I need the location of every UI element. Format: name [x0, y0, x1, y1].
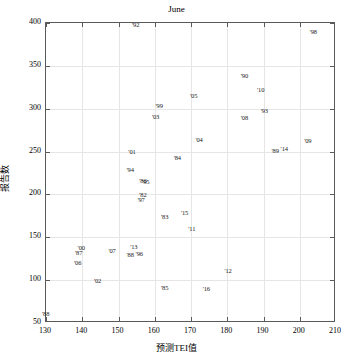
data-point-label: '06	[74, 259, 81, 266]
y-axis-tick-label: 200	[15, 188, 41, 197]
gridline-horizontal	[46, 66, 334, 67]
data-point-label: '13	[130, 242, 137, 249]
x-axis-tick-label: 150	[103, 326, 133, 335]
gridline-vertical	[191, 23, 192, 321]
data-point-label: '98	[310, 28, 317, 35]
y-axis-tick-label: 150	[15, 231, 41, 240]
y-axis-tick	[330, 237, 334, 238]
x-axis-tick	[191, 317, 192, 321]
x-axis-title: 预测TEI值	[0, 341, 353, 354]
gridline-horizontal	[46, 109, 334, 110]
x-axis-tick-label: 130	[30, 326, 60, 335]
data-point-label: '99	[156, 102, 163, 109]
x-axis-tick	[300, 23, 301, 27]
y-axis-tick	[330, 109, 334, 110]
x-axis-tick-label: 160	[139, 326, 169, 335]
x-axis-tick	[82, 317, 83, 321]
data-point-label: '93	[261, 107, 268, 114]
y-axis-tick	[46, 152, 50, 153]
gridline-vertical	[155, 23, 156, 321]
data-point-label: '01	[128, 147, 135, 154]
data-point-label: '15	[181, 209, 188, 216]
y-axis-tick	[330, 194, 334, 195]
data-point-label: '88	[42, 310, 49, 317]
x-axis-tick-label: 170	[175, 326, 205, 335]
y-axis-tick-label: 350	[15, 60, 41, 69]
x-axis-tick	[155, 317, 156, 321]
gridline-horizontal	[46, 237, 334, 238]
gridline-vertical	[227, 23, 228, 321]
y-axis-tick	[330, 280, 334, 281]
gridline-vertical	[300, 23, 301, 321]
x-axis-tick	[227, 23, 228, 27]
y-axis-tick	[330, 23, 334, 24]
plot-area	[45, 22, 335, 322]
x-axis-tick-label: 200	[284, 326, 314, 335]
y-axis-tick-label: 250	[15, 146, 41, 155]
x-axis-tick-label: 140	[66, 326, 96, 335]
y-axis-tick-label: 300	[15, 103, 41, 112]
y-axis-tick	[46, 194, 50, 195]
x-axis-tick	[82, 23, 83, 27]
data-point-label: '84	[174, 153, 181, 160]
data-point-label: '14	[281, 145, 288, 152]
x-axis-tick-label: 180	[211, 326, 241, 335]
x-axis-tick	[264, 317, 265, 321]
x-axis-tick	[119, 317, 120, 321]
x-axis-tick	[227, 317, 228, 321]
gridline-horizontal	[46, 194, 334, 195]
data-point-label: '08	[241, 114, 248, 121]
chart-figure: June 预测TEI值 报告数 130140150160170180190200…	[0, 0, 353, 362]
data-point-label: '88	[127, 251, 134, 258]
gridline-vertical	[264, 23, 265, 321]
x-axis-tick	[191, 23, 192, 27]
data-point-label: '94	[127, 166, 134, 173]
data-point-label: '95	[142, 177, 149, 184]
x-axis-tick	[155, 23, 156, 27]
y-axis-tick	[46, 109, 50, 110]
data-point-label: '11	[188, 224, 195, 231]
x-axis-tick	[264, 23, 265, 27]
data-point-label: '02	[94, 277, 101, 284]
gridline-vertical	[82, 23, 83, 321]
x-axis-tick-label: 210	[320, 326, 350, 335]
data-point-label: '10	[257, 85, 264, 92]
x-axis-tick	[119, 23, 120, 27]
y-axis-tick	[46, 66, 50, 67]
data-point-label: '04	[195, 136, 202, 143]
y-axis-title: 报告数	[0, 165, 11, 192]
y-axis-tick-label: 400	[15, 17, 41, 26]
y-axis-tick	[330, 66, 334, 67]
data-point-label: '09	[304, 137, 311, 144]
x-axis-tick	[46, 317, 47, 321]
y-axis-tick	[46, 23, 50, 24]
data-point-label: '97	[137, 195, 144, 202]
data-point-label: '07	[108, 247, 115, 254]
data-point-label: '05	[190, 91, 197, 98]
chart-title: June	[0, 4, 353, 14]
data-point-label: '92	[132, 20, 139, 27]
y-axis-tick-label: 50	[15, 317, 41, 326]
y-axis-tick-label: 100	[15, 274, 41, 283]
data-point-label: '83	[161, 212, 168, 219]
y-axis-tick	[330, 152, 334, 153]
data-point-label: '16	[203, 284, 210, 291]
x-axis-tick	[300, 317, 301, 321]
data-point-label: '03	[152, 113, 159, 120]
y-axis-tick	[46, 280, 50, 281]
gridline-vertical	[119, 23, 120, 321]
x-axis-tick-label: 190	[248, 326, 278, 335]
data-point-label: '12	[224, 266, 231, 273]
data-point-label: '96	[136, 250, 143, 257]
y-axis-tick	[46, 237, 50, 238]
data-point-label: '87	[75, 248, 82, 255]
data-point-label: '89	[272, 146, 279, 153]
gridline-horizontal	[46, 280, 334, 281]
data-point-label: '90	[241, 72, 248, 79]
gridline-horizontal	[46, 152, 334, 153]
data-point-label: '85	[161, 283, 168, 290]
